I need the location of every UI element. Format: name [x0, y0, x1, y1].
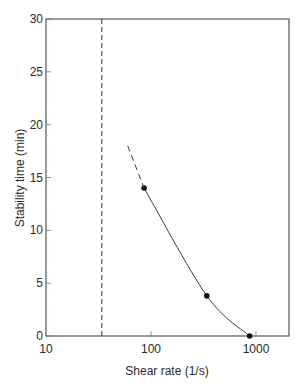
fitted-curve: [144, 188, 250, 336]
y-axis: 051015202530: [30, 12, 51, 343]
plot-border: [46, 19, 289, 336]
y-tick-label: 25: [30, 65, 44, 79]
x-axis: 101001000: [39, 331, 269, 356]
y-tick-label: 0: [36, 329, 43, 343]
data-point-marker: [204, 293, 210, 299]
chart-container: 051015202530 101001000 Shear rate (1/s) …: [0, 0, 300, 390]
y-tick-label: 5: [36, 276, 43, 290]
data-series: [128, 146, 253, 339]
x-axis-label: Shear rate (1/s): [125, 364, 208, 378]
y-tick-label: 20: [30, 118, 44, 132]
x-tick-label: 100: [141, 342, 161, 356]
extrapolation-dashed-line: [128, 146, 144, 188]
stability-chart: 051015202530 101001000 Shear rate (1/s) …: [0, 0, 300, 390]
data-point-marker: [247, 333, 253, 339]
x-tick-label: 10: [39, 342, 53, 356]
y-tick-label: 15: [30, 171, 44, 185]
y-tick-label: 10: [30, 223, 44, 237]
y-axis-label: Stability time (min): [13, 129, 27, 228]
y-tick-label: 30: [30, 12, 44, 26]
plot-frame: [46, 19, 289, 336]
x-tick-label: 1000: [243, 342, 270, 356]
